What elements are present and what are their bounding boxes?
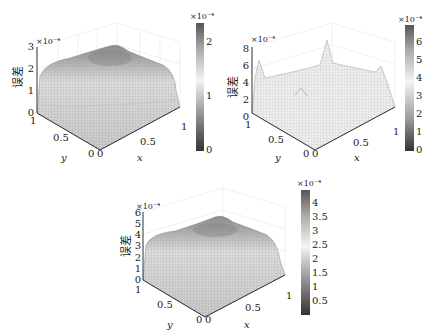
z-exponent-label: ×10⁻⁴ [36,37,60,46]
surface-plot-b: ×10⁻⁴ 0 2 4 6 8 误差 1 0.5 0 0 0.5 1 y x ×… [215,0,433,165]
svg-text:×10⁻⁴: ×10⁻⁴ [398,15,422,24]
surface-plot-a: ×10⁻⁴ 0 1 2 3 误差 1 0.5 0 0 0.5 1 y x ×10… [0,0,220,165]
svg-text:2: 2 [28,63,34,74]
svg-text:3: 3 [312,225,318,236]
svg-text:0: 0 [303,148,309,159]
svg-text:2: 2 [243,94,249,105]
svg-text:×10⁻⁴: ×10⁻⁴ [297,179,321,188]
x-axis-label: x [244,319,250,330]
z-exponent-label: ×10⁻⁴ [251,35,275,44]
z-axis-label: 误差 [119,235,133,257]
svg-text:0.5: 0.5 [268,134,284,145]
surface-plot-c-canvas: ×10⁻⁴ 0 1 2 3 4 5 6 误差 1 0.5 0 0 0.5 1 y… [100,165,340,334]
surface-plot-b-canvas: ×10⁻⁴ 0 2 4 6 8 误差 1 0.5 0 0 0.5 1 y x ×… [215,0,433,165]
svg-text:2: 2 [312,253,318,264]
surface-plot-a-canvas: ×10⁻⁴ 0 1 2 3 误差 1 0.5 0 0 0.5 1 y x ×10… [0,0,220,165]
svg-text:1: 1 [416,126,422,137]
svg-text:1: 1 [206,90,212,101]
svg-text:3: 3 [135,240,141,251]
y-axis-label: y [166,319,173,330]
z-axis-label: 误差 [11,66,25,88]
svg-text:2: 2 [135,252,141,263]
svg-text:0.5: 0.5 [353,137,369,148]
svg-text:6: 6 [135,207,141,218]
svg-text:1: 1 [245,119,251,130]
svg-text:1: 1 [135,263,141,274]
svg-text:1: 1 [181,121,187,132]
svg-text:0: 0 [88,148,94,159]
svg-text:0.5: 0.5 [157,299,173,310]
svg-text:0.5: 0.5 [140,136,156,147]
svg-text:×10⁻⁴: ×10⁻⁴ [190,12,214,21]
colorbar-c: ×10⁻⁴ 0.5 1 1.5 2 2.5 3 3.5 4 [297,179,328,315]
x-axis-label: x [137,152,143,163]
svg-text:3: 3 [416,90,422,101]
svg-text:3: 3 [28,41,34,52]
svg-text:1: 1 [312,281,318,292]
svg-text:6: 6 [416,36,422,47]
svg-text:0: 0 [312,148,318,159]
svg-text:0: 0 [97,148,103,159]
x-axis-label: x [354,152,360,163]
svg-text:1: 1 [135,284,141,295]
z-axis-label: 误差 [226,76,240,98]
y-axis-label: y [274,152,281,163]
colorbar-b: ×10⁻⁴ 0 1 2 3 4 5 6 [398,15,422,155]
svg-text:6: 6 [243,60,249,71]
svg-text:0: 0 [416,144,422,155]
svg-text:3.5: 3.5 [312,211,328,222]
svg-text:4: 4 [135,229,141,240]
svg-text:1.5: 1.5 [312,267,328,278]
svg-text:0.5: 0.5 [312,295,328,306]
svg-text:1: 1 [30,115,36,126]
svg-text:1: 1 [28,85,34,96]
svg-text:0: 0 [205,314,211,325]
svg-text:0.5: 0.5 [53,132,69,143]
svg-text:2: 2 [206,36,212,47]
svg-text:0: 0 [206,144,212,155]
colorbar-a: ×10⁻⁴ 0 1 2 [190,12,214,155]
svg-text:1: 1 [393,126,399,137]
svg-text:1: 1 [286,290,292,301]
svg-text:2: 2 [416,108,422,119]
svg-text:0.5: 0.5 [245,302,261,313]
svg-text:4: 4 [416,72,422,83]
z-ticks: 0 2 4 6 8 [243,43,249,122]
svg-text:4: 4 [243,77,249,88]
svg-text:0: 0 [196,314,202,325]
svg-text:4: 4 [312,197,318,208]
svg-text:2.5: 2.5 [312,239,328,250]
z-ticks: 0 1 2 3 [28,41,34,118]
y-axis-label: y [60,152,67,163]
svg-text:8: 8 [243,43,249,54]
svg-text:5: 5 [416,54,422,65]
surface-plot-c: ×10⁻⁴ 0 1 2 3 4 5 6 误差 1 0.5 0 0 0.5 1 y… [100,165,340,334]
svg-text:5: 5 [135,218,141,229]
z-ticks: 0 1 2 3 4 5 6 [135,207,141,285]
